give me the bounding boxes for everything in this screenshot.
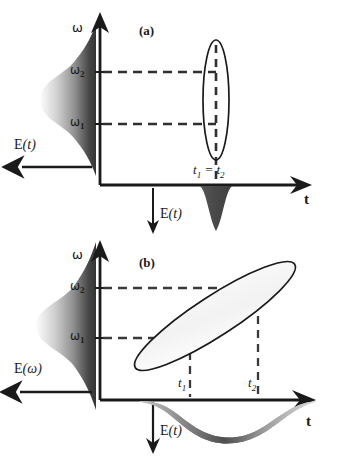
omega-tick-1-a: ω1: [70, 116, 85, 131]
omega-axis-label-a: ω: [72, 21, 83, 34]
time-axis-label-b: t: [306, 414, 311, 429]
panel-a-graphic: [0, 0, 344, 235]
time-tick-1-b: t1: [178, 376, 186, 393]
time-tick-2-b: t2: [248, 376, 256, 393]
panel-tag-b: (b): [139, 256, 155, 269]
spectrum-label-a: E(t): [14, 138, 36, 152]
spectrum-label-b: E(ω): [14, 362, 42, 376]
spectrum-profile-a: [40, 24, 96, 176]
omega-axis-label-b: ω: [72, 248, 83, 261]
spectrum-profile-b: [36, 242, 96, 410]
panel-b: ω ω2 ω1 E(ω) (b) t1 t2 t E(t): [0, 234, 344, 469]
panel-a: ω ω2 ω1 E(t) (a) t1 = t2 t E(t): [0, 0, 344, 235]
omega-tick-2-a: ω2: [70, 64, 85, 79]
panel-tag-a: (a): [139, 24, 154, 37]
omega-tick-2-b: ω2: [70, 280, 85, 295]
wigner-ellipse-a: [203, 40, 229, 160]
efield-label-b: E(t): [160, 424, 182, 438]
efield-label-a: E(t): [160, 207, 182, 221]
temporal-pulse-a: [199, 186, 233, 231]
omega-tick-1-b: ω1: [70, 330, 85, 345]
time-axis-label-a: t: [304, 192, 309, 207]
time-equality-label-a: t1 = t2: [193, 163, 225, 180]
